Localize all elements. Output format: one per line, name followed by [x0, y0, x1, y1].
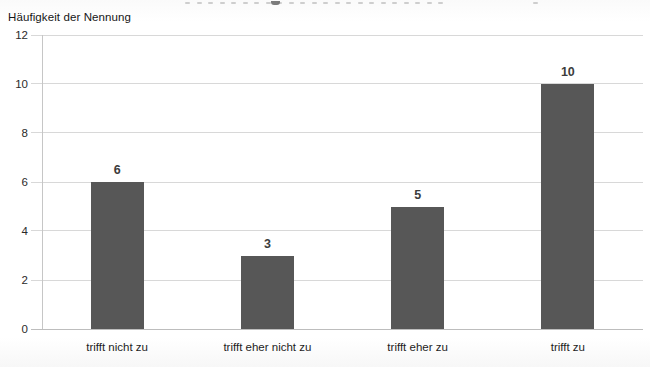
cropped-title-remnants [0, 0, 650, 6]
bar-value-label-3: 5 [391, 188, 444, 202]
cut-off-text-mark [197, 2, 202, 4]
bars-container: 63510 [42, 35, 643, 329]
cut-off-text-mark [289, 2, 294, 4]
cut-off-text-mark [254, 2, 259, 4]
cut-off-text-mark [323, 2, 328, 4]
cut-off-text-mark [220, 2, 225, 4]
bar-cell-1: 6 [42, 35, 192, 329]
cut-off-text-mark [438, 2, 443, 4]
x-category-label-2: trifft eher nicht zu [192, 341, 342, 359]
bar-1 [91, 182, 144, 329]
cut-off-text-mark [266, 2, 271, 4]
bar-4 [541, 84, 594, 329]
cut-off-text-mark [381, 2, 386, 4]
bar-value-label-4: 10 [541, 65, 594, 79]
bar-column-1: 6 [91, 35, 144, 329]
x-category-label-4: trifft zu [493, 341, 643, 359]
cut-off-text-mark [208, 2, 213, 4]
y-tick-label-6: 6 [22, 176, 28, 188]
cut-off-text-mark [533, 2, 538, 4]
bar-chart-figure: Häufigkeit der Nennung 121086420 63510 t… [0, 0, 650, 367]
bar-2 [241, 256, 294, 330]
plot-area: 121086420 63510 [42, 35, 643, 329]
cut-off-text-mark [369, 2, 374, 4]
cut-off-text-mark [271, 1, 280, 5]
cut-off-text-mark [231, 2, 236, 4]
cut-off-text-mark [300, 2, 305, 4]
cut-off-text-mark [243, 2, 248, 4]
bar-column-3: 5 [391, 35, 444, 329]
bar-column-2: 3 [241, 35, 294, 329]
bar-cell-3: 5 [343, 35, 493, 329]
bar-3 [391, 207, 444, 330]
cut-off-text-mark [335, 2, 340, 4]
cut-off-text-mark [427, 2, 432, 4]
cut-off-text-mark [415, 2, 420, 4]
y-tick-label-8: 8 [22, 127, 28, 139]
bar-value-label-2: 3 [241, 237, 294, 251]
cut-off-text-mark [358, 2, 363, 4]
x-category-label-1: trifft nicht zu [42, 341, 192, 359]
bar-column-4: 10 [541, 35, 594, 329]
x-axis-labels: trifft nicht zutrifft eher nicht zutriff… [42, 341, 643, 359]
y-tick-label-10: 10 [15, 78, 28, 90]
cut-off-text-mark [312, 2, 317, 4]
bar-cell-2: 3 [192, 35, 342, 329]
bar-cell-4: 10 [493, 35, 643, 329]
x-category-label-3: trifft eher zu [343, 341, 493, 359]
cut-off-text-mark [185, 2, 190, 4]
y-tick-label-12: 12 [15, 29, 28, 41]
y-tick-label-2: 2 [22, 274, 28, 286]
cut-off-text-mark [404, 2, 409, 4]
y-tick-label-4: 4 [22, 225, 28, 237]
bar-value-label-1: 6 [91, 163, 144, 177]
cut-off-text-mark [346, 2, 351, 4]
cut-off-text-mark [392, 2, 397, 4]
y-tick-label-0: 0 [22, 323, 28, 335]
y-axis-title: Häufigkeit der Nennung [8, 11, 131, 23]
